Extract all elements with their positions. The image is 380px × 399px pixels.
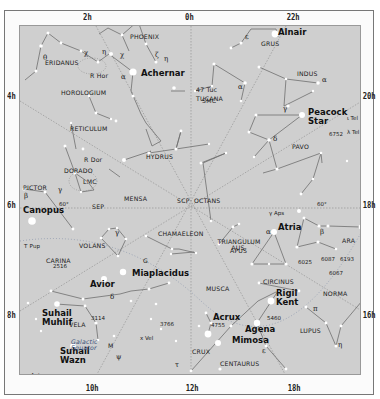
greek-label-beta-ara: β [320,229,324,236]
star-label-canopus[interactable]: Canopus [23,206,64,215]
greek-label-eta-lupus: η [338,342,342,349]
object-label-lambda-tel: λ Tel [347,130,359,136]
object-label-epsilon-ant: ε Ant [26,373,40,375]
greek-label-beta-pictor: β [24,193,28,200]
object-label-x-vel: x Vel [140,336,153,342]
greek-label-gamma-volans: γ [115,230,119,237]
greek-label-epsilon-centaurus: ε [262,348,266,355]
constellation-label-centaurus: CENTAURUS [220,361,259,367]
constellation-label-volans: VOLANS [79,243,106,249]
constellation-label-octans: OCTANS [194,198,220,204]
greek-label-tau-centaurus: τ [175,362,179,369]
dec-marker-60-right: 60° [317,202,327,208]
star-label-alnair[interactable]: Alnair [278,28,306,37]
constellation-label-horologium: HOROLOGIUM [61,90,106,96]
dec-marker-60-left: 60° [59,202,69,208]
object-label-m: M [108,343,114,349]
object-label-lmc: LMC [83,179,97,185]
object-label-r-hor: R Hor [90,73,108,79]
constellation-label-reticulum: RETICULUM [70,126,107,132]
greek-label-chi-phoenix: χ [120,52,124,59]
constellation-label-phoenix: PHOENIX [130,34,159,40]
constellation-label-ara: ARA [342,238,355,244]
ra-label-10h: 10h [86,383,99,393]
object-label-iota-tel: ι Tel [347,116,358,122]
star-label-peacock-star[interactable]: Peacock Star [308,108,342,126]
greek-label-alpha-tucana: α [238,84,243,91]
constellation-label-circinus: CIRCINUS [263,279,294,285]
object-label-3766: 3766 [160,322,174,328]
star-field[interactable]: PHOENIX GRUS ERIDANUS INDUS HOROLOGIUM T… [19,25,361,375]
star-label-atria[interactable]: Atria [278,223,301,232]
object-label-r-dor: R Dor [84,157,102,163]
star-label-suhail-muhlif[interactable]: Suhail Muhlif [42,309,76,327]
object-label-47-tuc: 47 Tuc [196,87,217,93]
constellation-label-lupus: LUPUS [300,328,321,334]
greek-label-theta-eridanus: θ [43,55,47,62]
ra-label-0h: 0h [185,12,194,22]
object-label-scp: SCP [177,198,190,204]
object-label-sep: SEP [92,204,104,210]
dec-label-18h: 18h [363,200,376,210]
constellation-label-dorado: DORADO [64,168,93,174]
object-label-6193: 6193 [340,257,354,263]
ra-label-18h: 18h [288,383,301,393]
greek-label-zeta-phoenix: ζ [155,52,159,59]
greek-label-delta-vela: δ [110,294,114,301]
object-label-6025: 6025 [298,260,312,266]
star-label-acrux[interactable]: Acrux [213,313,240,322]
star-label-achernar[interactable]: Achernar [141,69,185,78]
ra-label-12h: 12h [186,383,199,393]
object-label-smc: SMC [202,98,216,104]
object-label-6087: 6087 [321,257,335,263]
constellation-label-triangulum-aus: TRIANGULUM AUS. [214,239,264,251]
constellation-label-pictor: PICTOR [23,185,47,191]
object-label-5460: 5460 [267,316,281,322]
dec-label-4h: 4h [7,91,16,101]
ra-label-2h: 2h [83,12,92,22]
greek-label-alpha-achernar: α [121,74,126,81]
greek-label-gamma-pictor: γ [58,187,62,194]
constellation-label-mensa: MENSA [124,196,147,202]
ra-label-22h: 22h [287,12,300,22]
object-label-t-pup: T Pup [24,244,40,250]
object-label-gamma-aps: γ Aps [269,211,284,217]
greek-label-epsilon-grus: ε [245,34,249,41]
dec-label-16h: 16h [363,310,376,320]
constellation-label-chamaeleon: CHAMAELEON [158,231,204,237]
dec-label-8h: 8h [7,310,16,320]
star-label-miaplacidus[interactable]: Miaplacidus [132,269,189,278]
constellation-label-norma: NORMA [323,291,347,297]
star-label-agena[interactable]: Agena [245,325,275,334]
object-label-2516: 2516 [53,264,67,270]
greek-label-delta-pavo: δ [273,136,277,143]
greek-label-alpha-indus: α [322,77,327,84]
object-label-galactic-equator: Galactic Equator [71,339,101,351]
greek-label-pi-lupus: π [313,306,318,313]
constellation-label-indus: INDUS [297,71,318,77]
constellation-label-pavo: PAVO [292,144,309,150]
object-label-g: G [143,258,148,264]
greek-label-eta-phoenix: η [164,56,168,63]
constellation-label-hydrus: HYDRUS [146,154,173,160]
star-label-mimosa[interactable]: Mimosa [232,336,269,345]
dec-label-20h: 20h [363,91,376,101]
dec-label-6h: 6h [7,200,16,210]
object-label-6067: 6067 [329,271,343,277]
constellation-label-crux: CRUX [192,349,210,355]
object-label-3114: 3114 [91,316,105,322]
greek-label-alpha-atria: α [266,229,271,236]
greek-label-gamma-pavo: γ [283,106,287,113]
star-label-avior[interactable]: Avior [90,280,115,289]
greek-label-psi-vela: ψ [116,354,122,361]
object-label-4755: 4755 [211,323,225,329]
constellation-label-eridanus: ERIDANUS [45,60,79,66]
constellation-label-grus: GRUS [261,41,279,47]
greek-label-chi-eridanus: χ [84,50,88,57]
constellation-label-musca: MUSCA [206,286,229,292]
star-label-rigil-kent[interactable]: Rigil Kent [276,289,302,307]
object-label-6752: 6752 [329,132,343,138]
greek-label-eta-eridanus: η [102,49,106,56]
